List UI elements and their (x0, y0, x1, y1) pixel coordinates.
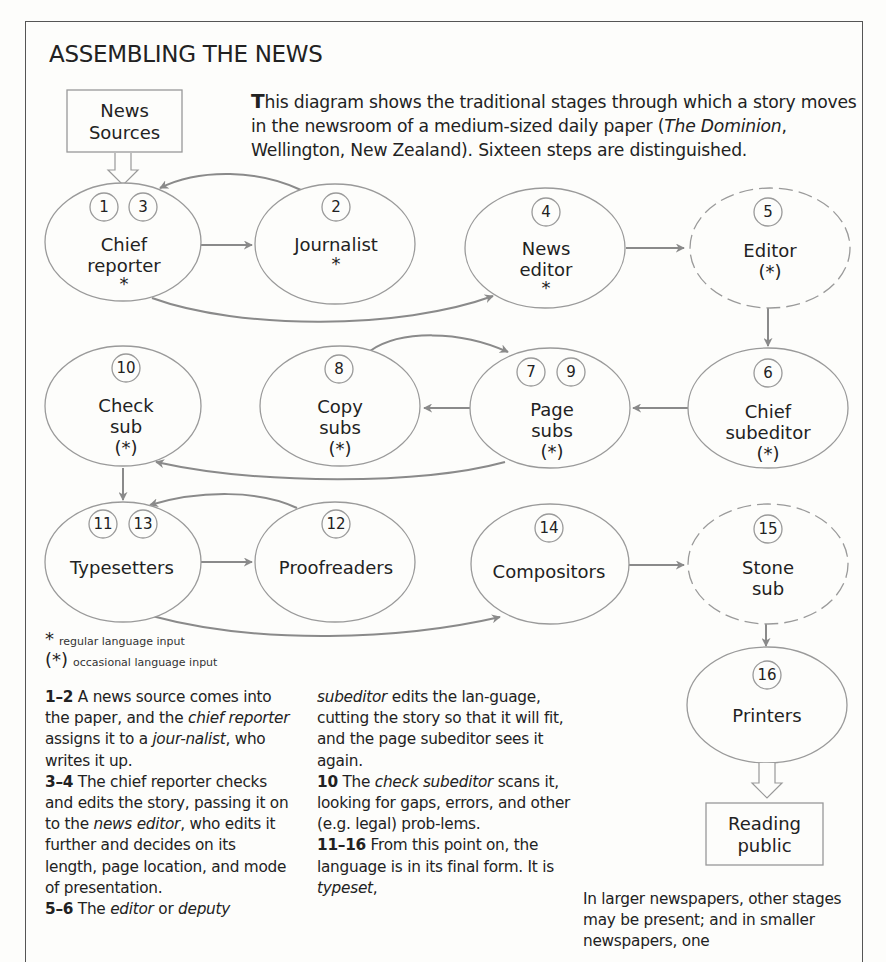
label-copy-subs-1: Copy (317, 396, 363, 417)
label-news-editor-1: News (522, 238, 571, 259)
news-sources-label-1: News (100, 100, 149, 121)
label-editor-1: Editor (743, 240, 797, 261)
paragraph: In larger newspapers, other stages may b… (583, 889, 853, 953)
label-journalist-1: Journalist (293, 234, 378, 255)
label-copy-subs-2: subs (319, 417, 361, 438)
paragraph: 10 The check subeditor scans it, looking… (317, 772, 582, 836)
step-6: 6 (763, 364, 773, 382)
paragraph: 3–4 The chief reporter checks and edits … (45, 772, 290, 899)
edge-journalist-to-chief-reporter (160, 174, 301, 190)
step-3: 3 (138, 198, 148, 216)
step-15: 15 (758, 520, 777, 538)
label-page-subs-3: (*) (540, 441, 563, 462)
label-check-sub-2: sub (110, 416, 142, 437)
hollow-arrow-down-icon (752, 763, 782, 798)
italic-term: chief reporter (188, 709, 289, 727)
legend-occasional-label: occasional language input (73, 656, 217, 669)
italic-term: deputy (178, 900, 230, 918)
text-column-1: 1–2 A news source comes into the paper, … (45, 687, 290, 920)
label-chief-subeditor-3: (*) (756, 443, 779, 464)
step-range: 5–6 (45, 900, 73, 918)
step-8: 8 (334, 360, 344, 378)
italic-term: news editor (93, 815, 180, 833)
italic-term: check subeditor (375, 773, 493, 791)
paragraph: subeditor edits the lan-guage, cutting t… (317, 687, 582, 772)
reading-public-label-1: Reading (728, 813, 801, 834)
step-4: 4 (541, 203, 551, 221)
news-sources-label-2: Sources (89, 122, 160, 143)
asterisk-symbol: * (45, 628, 54, 649)
text-column-3: In larger newspapers, other stages may b… (583, 889, 853, 953)
italic-term: editor (110, 900, 154, 918)
label-news-editor-3: * (542, 277, 551, 298)
edge-copy-subs-to-page-subs (370, 335, 508, 352)
step-range: 10 (317, 773, 338, 791)
italic-term: typeset (317, 879, 373, 897)
step-12: 12 (326, 515, 345, 533)
bracketed-asterisk-symbol: (*) (45, 649, 68, 670)
step-5: 5 (763, 203, 773, 221)
label-check-sub-3: (*) (114, 437, 137, 458)
italic-term: jour-nalist (152, 730, 225, 748)
label-editor-2: (*) (758, 261, 781, 282)
step-11: 11 (93, 515, 112, 533)
legend-occasional: (*)occasional language input (45, 649, 217, 670)
hollow-arrow-down-icon (108, 153, 138, 185)
step-1: 1 (99, 198, 109, 216)
step-13: 13 (133, 515, 152, 533)
step-numbers: 1 3 2 4 5 6 7 9 8 10 11 13 12 14 15 16 (93, 198, 777, 684)
label-check-sub-1: Check (98, 395, 154, 416)
label-printers: Printers (732, 705, 801, 726)
step-2: 2 (331, 198, 341, 216)
reading-public-box: Reading public (706, 803, 823, 865)
step-14: 14 (539, 519, 558, 537)
label-chief-reporter-1: Chief (101, 234, 148, 255)
step-16: 16 (757, 666, 776, 684)
edge-proofreaders-to-typesetters (150, 494, 297, 508)
label-chief-subeditor-2: subeditor (725, 422, 811, 443)
label-journalist-2: * (332, 253, 341, 274)
paragraph: 11–16 From this point on, the language i… (317, 835, 582, 899)
text-column-2: subeditor edits the lan-guage, cutting t… (317, 687, 582, 899)
label-page-subs-1: Page (530, 399, 574, 420)
label-typesetters: Typesetters (69, 557, 174, 578)
paragraph: 1–2 A news source comes into the paper, … (45, 687, 290, 772)
news-sources-box: News Sources (67, 90, 182, 152)
legend-regular-label: regular language input (59, 635, 185, 648)
label-compositors: Compositors (493, 561, 606, 582)
label-stone-sub-1: Stone (742, 557, 794, 578)
step-range: 3–4 (45, 773, 73, 791)
paragraph: 5–6 The editor or deputy (45, 899, 290, 920)
italic-term: subeditor (317, 688, 387, 706)
step-7: 7 (526, 363, 536, 381)
label-stone-sub-2: sub (752, 578, 784, 599)
label-chief-reporter-3: * (120, 273, 129, 294)
step-range: 11–16 (317, 836, 366, 854)
label-proofreaders: Proofreaders (279, 557, 393, 578)
reading-public-label-2: public (737, 835, 791, 856)
label-page-subs-2: subs (531, 420, 573, 441)
step-10: 10 (116, 359, 135, 377)
step-range: 1–2 (45, 688, 73, 706)
edges (123, 174, 768, 646)
label-chief-subeditor-1: Chief (745, 401, 792, 422)
label-copy-subs-3: (*) (328, 438, 351, 459)
step-9: 9 (566, 363, 576, 381)
legend-regular: *regular language input (45, 628, 185, 649)
